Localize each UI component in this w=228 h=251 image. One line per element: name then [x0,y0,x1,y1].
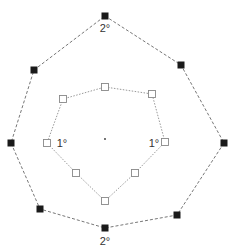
inner-test-point-open [132,170,139,177]
outer-test-point-filled [102,13,109,20]
outer-test-point-filled [221,140,228,147]
inner-test-point-open [162,139,169,146]
outer-ring-outline [11,16,224,228]
outer-ring-points [8,13,228,232]
outer-test-point-filled [174,212,181,219]
outer-label-top: 2° [100,22,111,34]
inner-test-point-open [73,170,80,177]
outer-test-point-filled [31,67,38,74]
outer-label-bottom: 2° [100,235,111,247]
inner-test-point-open [149,91,156,98]
inner-test-point-open [102,198,109,205]
inner-test-point-open [102,84,109,91]
outer-test-point-filled [102,225,109,232]
outer-test-point-filled [8,140,15,147]
inner-test-point-open [60,96,67,103]
visual-field-diagram: 2° 2° 1° 1° [0,0,228,251]
inner-label-left: 1° [57,137,68,149]
center-fixation-dot [104,138,106,140]
outer-test-point-filled [178,62,185,69]
inner-label-right: 1° [149,137,160,149]
inner-test-point-open [44,140,51,147]
outer-test-point-filled [37,206,44,213]
